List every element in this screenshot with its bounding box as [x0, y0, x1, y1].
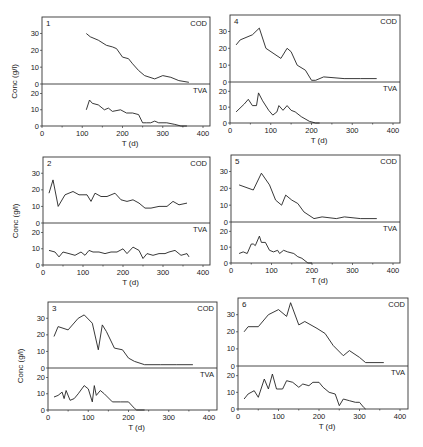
panel-5: 5CODTVA0102030010200100200300400T (d) — [220, 155, 400, 285]
tva-label: TVA — [391, 368, 405, 377]
y-tick-label: 20 — [32, 185, 40, 194]
y-axis-label: Conc (g/l) — [10, 64, 19, 99]
y-tick-label: 0 — [35, 80, 39, 89]
cod-label: COD — [190, 159, 207, 168]
tva-label: TVA — [383, 224, 397, 233]
y-tick-label: 30 — [37, 314, 45, 323]
y-tick-label: 10 — [220, 201, 228, 210]
cod-label: COD — [197, 304, 214, 313]
tva-line — [54, 386, 145, 410]
x-tick-label: 300 — [156, 129, 169, 138]
y-tick-label: 30 — [32, 169, 40, 178]
panel-6: 6CODTVA0102030010200100200300400T (d) — [227, 298, 408, 431]
tva-line — [49, 247, 189, 258]
x-tick-label: 0 — [236, 412, 240, 421]
x-tick-label: 400 — [394, 412, 407, 421]
y-tick-label: 10 — [37, 347, 45, 356]
cod-line — [236, 28, 377, 80]
y-tick-label: 0 — [231, 362, 235, 371]
panel-frame — [42, 17, 210, 126]
y-tick-label: 10 — [219, 103, 227, 112]
panel-number: 2 — [47, 159, 52, 168]
x-tick-label: 400 — [387, 266, 400, 275]
y-tick-label: 30 — [31, 29, 39, 38]
y-tick-label: 10 — [227, 344, 235, 353]
x-tick-label: 300 — [353, 412, 366, 421]
panel-number: 4 — [234, 17, 239, 26]
y-tick-label: 20 — [227, 371, 235, 380]
cod-label: COD — [380, 17, 397, 26]
x-tick-label: 100 — [264, 126, 277, 135]
x-tick-label: 100 — [82, 413, 95, 422]
x-tick-label: 0 — [229, 266, 233, 275]
y-tick-label: 0 — [36, 219, 40, 228]
tva-label: TVA — [200, 370, 214, 379]
x-axis-label: T (d) — [319, 422, 336, 431]
tva-label: TVA — [193, 86, 207, 95]
x-tick-label: 300 — [346, 126, 359, 135]
x-tick-label: 0 — [46, 413, 50, 422]
tva-line — [86, 100, 187, 126]
cod-line — [54, 315, 193, 365]
y-tick-label: 10 — [31, 105, 39, 114]
x-axis-label: T (d) — [122, 139, 139, 148]
tva-line — [239, 236, 312, 263]
y-tick-label: 10 — [219, 61, 227, 70]
x-tick-label: 200 — [116, 129, 129, 138]
y-tick-label: 0 — [224, 259, 228, 268]
x-tick-label: 0 — [228, 126, 232, 135]
y-tick-label: 20 — [219, 44, 227, 53]
y-tick-label: 20 — [31, 89, 39, 98]
x-axis-label: T (d) — [128, 423, 145, 432]
y-tick-label: 30 — [227, 310, 235, 319]
x-axis-label: T (d) — [122, 278, 139, 287]
cod-line — [244, 303, 384, 363]
x-tick-label: 100 — [76, 129, 89, 138]
y-tick-label: 20 — [220, 184, 228, 193]
panel-frame — [43, 157, 210, 265]
panel-frame — [231, 155, 400, 263]
y-tick-label: 20 — [32, 228, 40, 237]
panel-3: 3CODTVA0102030010200100200300400T (d)Con… — [16, 302, 217, 432]
x-tick-label: 200 — [313, 412, 326, 421]
y-tick-label: 10 — [37, 389, 45, 398]
cod-line — [239, 173, 377, 218]
cod-label: COD — [380, 157, 397, 166]
y-tick-label: 0 — [41, 364, 45, 373]
y-tick-label: 0 — [223, 78, 227, 87]
y-tick-label: 0 — [35, 122, 39, 131]
y-tick-label: 20 — [37, 330, 45, 339]
chart-svg: 1CODTVA0102030010200100200300400T (d)Con… — [0, 0, 423, 447]
panel-number: 3 — [52, 304, 57, 313]
panel-frame — [238, 298, 408, 409]
tva-line — [244, 374, 366, 409]
y-tick-label: 0 — [231, 405, 235, 414]
x-tick-label: 100 — [77, 268, 90, 277]
y-tick-label: 30 — [219, 27, 227, 36]
cod-line — [49, 180, 187, 208]
x-tick-label: 300 — [346, 266, 359, 275]
cod-label: COD — [190, 19, 207, 28]
y-tick-label: 30 — [220, 167, 228, 176]
y-tick-label: 10 — [31, 63, 39, 72]
y-tick-label: 0 — [223, 119, 227, 128]
x-axis-label: T (d) — [311, 136, 328, 145]
x-tick-label: 0 — [41, 268, 45, 277]
panel-1: 1CODTVA0102030010200100200300400T (d)Con… — [10, 17, 210, 148]
cod-label: COD — [388, 300, 405, 309]
x-axis-label: T (d) — [311, 276, 328, 285]
x-tick-label: 400 — [387, 126, 400, 135]
x-tick-label: 200 — [122, 413, 135, 422]
y-tick-label: 20 — [219, 87, 227, 96]
panel-frame — [48, 302, 217, 410]
panel-number: 6 — [242, 300, 247, 309]
cod-line — [86, 34, 189, 83]
tva-label: TVA — [383, 84, 397, 93]
panel-4: 4CODTVA0102030010200100200300400T (d) — [219, 15, 400, 145]
tva-line — [236, 93, 320, 123]
x-tick-label: 400 — [203, 413, 216, 422]
x-tick-label: 300 — [157, 268, 170, 277]
tva-label: TVA — [193, 225, 207, 234]
figure-container: 1CODTVA0102030010200100200300400T (d)Con… — [0, 0, 423, 447]
y-tick-label: 10 — [32, 202, 40, 211]
